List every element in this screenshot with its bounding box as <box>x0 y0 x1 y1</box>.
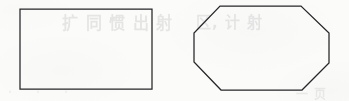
shapes-layer <box>0 0 349 101</box>
figure-canvas: 扩 同 惯 出 射 区, 计 射 一 页 · · · <box>0 0 349 101</box>
octagon-shape <box>194 6 329 90</box>
rectangle-shape <box>20 9 152 89</box>
